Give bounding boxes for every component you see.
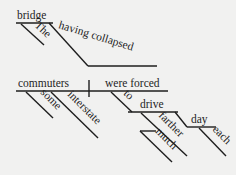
word-having-collapsed: having collapsed (57, 18, 135, 53)
word-the: The (33, 19, 54, 40)
word-drive: drive (140, 98, 164, 110)
sentence-diagram: bridge The having collapsed commuters we… (0, 0, 236, 175)
word-interstate: interstate (66, 88, 104, 126)
word-to: to (122, 87, 137, 102)
word-commuters: commuters (18, 77, 70, 89)
word-day: day (191, 113, 208, 126)
word-were-forced: were forced (105, 77, 160, 89)
